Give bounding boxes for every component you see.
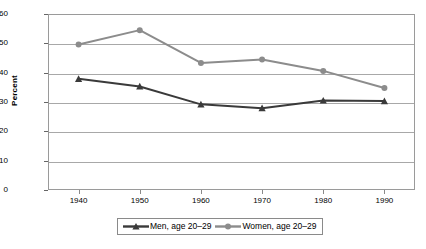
x-axis-tick-mark (79, 190, 80, 194)
legend-item[interactable]: Men, age 20–29 (123, 221, 211, 232)
y-axis-tick-label: 40 (0, 69, 8, 77)
data-point-marker (76, 42, 82, 48)
legend-marker-icon (215, 221, 241, 232)
series-layer (48, 14, 415, 190)
series-line (79, 79, 385, 108)
legend-item-label: Men, age 20–29 (150, 222, 211, 231)
x-axis-tick-mark (140, 190, 141, 194)
y-axis-tick-mark (44, 190, 48, 191)
legend-item-label: Women, age 20–29 (242, 222, 316, 231)
x-axis-tick-label: 1940 (59, 196, 99, 205)
y-axis-tick-label: 10 (0, 157, 8, 165)
data-point-marker (320, 68, 326, 74)
line-chart: Percent 0102030405060 194019501960197019… (0, 0, 426, 249)
x-axis-tick-label: 1980 (303, 196, 343, 205)
y-axis-tick-label: 60 (0, 10, 8, 18)
x-axis-tick-mark (323, 190, 324, 194)
y-axis-tick-label: 20 (0, 127, 8, 135)
data-point-marker (137, 27, 143, 33)
x-axis-tick-mark (384, 190, 385, 194)
data-point-marker (198, 60, 204, 66)
legend-marker-icon (123, 221, 149, 232)
y-axis-tick-label: 0 (0, 186, 8, 194)
x-axis-tick-mark (262, 190, 263, 194)
chart-legend: Men, age 20–29Women, age 20–29 (117, 218, 323, 235)
x-axis-tick-mark (201, 190, 202, 194)
x-axis-tick-label: 1950 (120, 196, 160, 205)
x-axis-tick-label: 1960 (181, 196, 221, 205)
data-point-marker (259, 56, 265, 62)
series-line (79, 30, 385, 88)
x-axis-tick-label: 1970 (242, 196, 282, 205)
y-axis-tick-label: 50 (0, 39, 8, 47)
y-axis-tick-label: 30 (0, 98, 8, 106)
x-axis-tick-label: 1990 (364, 196, 404, 205)
y-axis-title: Percent (10, 61, 19, 121)
legend-item[interactable]: Women, age 20–29 (215, 221, 316, 232)
data-point-marker (381, 85, 387, 91)
